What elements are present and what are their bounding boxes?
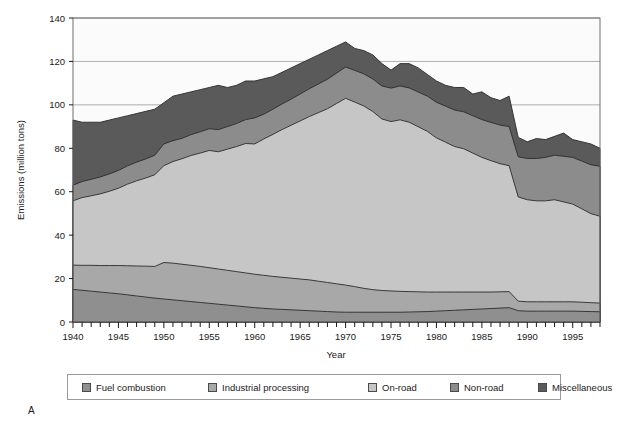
legend-swatch-icon [82, 383, 91, 392]
legend-label: On-road [382, 382, 417, 393]
x-axis: 1940194519501955196019651970197519801985… [62, 322, 600, 342]
y-tick-label: 140 [49, 13, 65, 24]
stacked-area-chart: 020406080100120140 194019451950195519601… [0, 0, 630, 428]
legend-item[interactable]: Industrial processing [208, 382, 309, 393]
y-tick-label: 40 [54, 230, 65, 241]
y-tick-label: 0 [60, 317, 65, 328]
x-tick-label: 1985 [471, 331, 492, 342]
x-tick-label: 1990 [517, 331, 538, 342]
x-axis-title: Year [326, 349, 345, 360]
chart-legend: Fuel combustionIndustrial processingOn-r… [67, 374, 561, 400]
legend-item[interactable]: Non-road [450, 382, 504, 393]
x-tick-label: 1975 [380, 331, 401, 342]
x-tick-label: 1950 [153, 331, 174, 342]
legend-swatch-icon [368, 383, 377, 392]
y-tick-label: 100 [49, 99, 65, 110]
figure-panel-a: 020406080100120140 194019451950195519601… [0, 0, 630, 428]
y-tick-label: 60 [54, 186, 65, 197]
legend-swatch-icon [208, 383, 217, 392]
y-tick-label: 80 [54, 143, 65, 154]
x-tick-label: 1945 [108, 331, 129, 342]
legend-swatch-icon [450, 383, 459, 392]
legend-item[interactable]: On-road [368, 382, 417, 393]
panel-label: A [28, 405, 35, 416]
y-tick-label: 20 [54, 273, 65, 284]
legend-label: Industrial processing [222, 382, 309, 393]
legend-item[interactable]: Fuel combustion [82, 382, 166, 393]
y-axis-title: Emissions (million tons) [15, 120, 26, 220]
x-tick-label: 1980 [426, 331, 447, 342]
legend-label: Non-road [464, 382, 504, 393]
legend-label: Fuel combustion [96, 382, 166, 393]
legend-label: Miscellaneous [552, 382, 612, 393]
y-axis: 020406080100120140 [49, 13, 73, 328]
x-tick-label: 1960 [244, 331, 265, 342]
x-tick-label: 1995 [562, 331, 583, 342]
legend-item[interactable]: Miscellaneous [538, 382, 612, 393]
legend-swatch-icon [538, 383, 547, 392]
x-tick-label: 1940 [62, 331, 83, 342]
x-tick-label: 1970 [335, 331, 356, 342]
y-tick-label: 120 [49, 56, 65, 67]
x-tick-label: 1965 [290, 331, 311, 342]
x-tick-label: 1955 [199, 331, 220, 342]
